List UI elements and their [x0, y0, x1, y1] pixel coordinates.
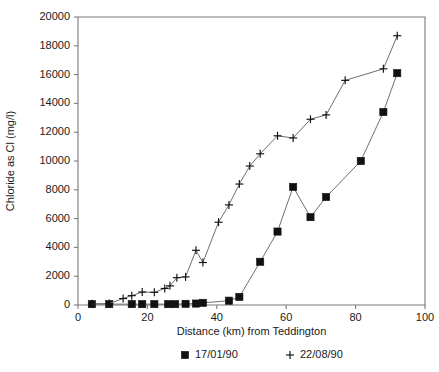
series-1 — [88, 70, 401, 308]
chart-legend: 17/01/9022/08/90 — [181, 348, 342, 360]
data-point-square — [357, 157, 364, 164]
series-polyline — [92, 36, 397, 304]
x-tick-label: 80 — [349, 311, 361, 323]
data-point-square — [380, 108, 387, 115]
y-axis-title: Chloride as Cl (mg/l) — [4, 111, 16, 211]
y-tick-label: 8000 — [46, 183, 70, 195]
data-point-square — [323, 193, 330, 200]
data-point-plus — [128, 292, 136, 300]
y-tick-label: 16000 — [39, 68, 70, 80]
data-point-plus — [393, 32, 401, 40]
series-2 — [88, 32, 401, 308]
data-point-plus — [138, 288, 146, 296]
axis-frame — [78, 17, 425, 305]
x-tick-label: 100 — [416, 311, 434, 323]
y-tick-label: 10000 — [39, 154, 70, 166]
data-point-square — [199, 299, 206, 306]
data-point-plus — [215, 218, 223, 226]
data-point-plus — [341, 76, 349, 84]
legend-marker-square — [181, 351, 188, 358]
x-axis-title: Distance (km) from Teddington — [177, 325, 327, 337]
data-point-plus — [322, 111, 330, 119]
data-point-plus — [119, 295, 127, 303]
data-point-square — [257, 258, 264, 265]
data-point-square — [128, 301, 135, 308]
x-tick-label: 60 — [280, 311, 292, 323]
y-tick-label: 0 — [64, 298, 70, 310]
data-point-plus — [225, 201, 233, 209]
y-tick-label: 14000 — [39, 96, 70, 108]
data-point-square — [192, 300, 199, 307]
x-tick-label: 20 — [141, 311, 153, 323]
y-tick-label: 2000 — [46, 269, 70, 281]
data-point-square — [139, 301, 146, 308]
data-point-square — [225, 297, 232, 304]
plot-frame — [78, 17, 425, 305]
data-point-plus — [379, 65, 387, 73]
data-point-square — [165, 301, 172, 308]
data-point-square — [172, 301, 179, 308]
y-axis-ticks: 0200040006000800010000120001400016000180… — [39, 10, 78, 310]
data-point-plus — [199, 259, 207, 267]
data-point-square — [307, 214, 314, 221]
y-tick-label: 20000 — [39, 10, 70, 22]
legend-label: 22/08/90 — [300, 348, 343, 360]
chart-figure: 0200040006000800010000120001400016000180… — [0, 0, 439, 372]
data-point-plus — [235, 180, 243, 188]
data-point-plus — [150, 288, 158, 296]
y-tick-label: 18000 — [39, 39, 70, 51]
data-point-square — [182, 300, 189, 307]
data-point-plus — [182, 273, 190, 281]
legend-label: 17/01/90 — [195, 348, 238, 360]
data-point-square — [394, 70, 401, 77]
legend-marker-plus — [286, 351, 294, 359]
data-series-layer — [88, 32, 401, 308]
x-tick-label: 40 — [211, 311, 223, 323]
series-polyline — [92, 73, 397, 304]
chart-canvas: 0200040006000800010000120001400016000180… — [0, 0, 439, 372]
x-tick-label: 0 — [75, 311, 81, 323]
y-tick-label: 4000 — [46, 240, 70, 252]
y-tick-label: 6000 — [46, 212, 70, 224]
y-tick-label: 12000 — [39, 125, 70, 137]
data-point-square — [290, 183, 297, 190]
data-point-plus — [192, 246, 200, 254]
data-point-square — [236, 293, 243, 300]
data-point-square — [274, 228, 281, 235]
data-point-square — [151, 301, 158, 308]
